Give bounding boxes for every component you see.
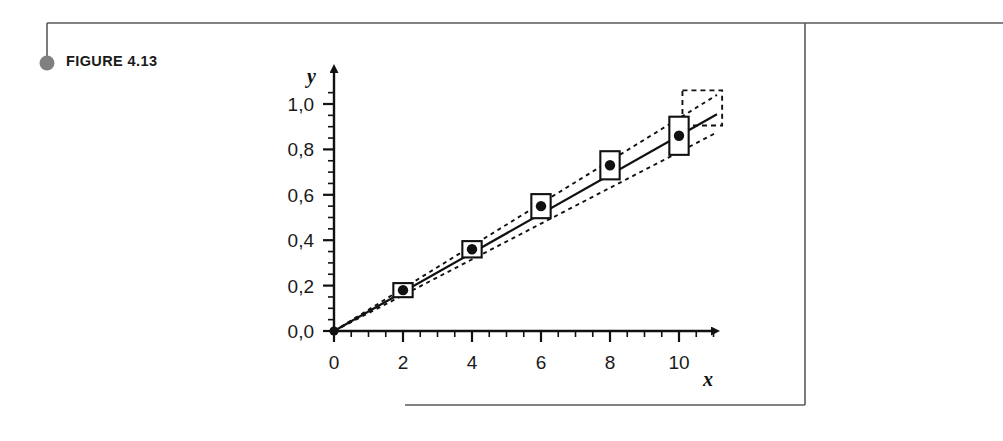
figure-container: FIGURE 4.13 0,00,20,40,60,81,0 0246810 y… <box>0 0 1003 441</box>
x-tick-label: 4 <box>467 352 478 373</box>
data-point-marker <box>605 160 615 170</box>
data-point-marker <box>536 201 546 211</box>
x-tick-label: 0 <box>329 352 340 373</box>
y-axis-ticks <box>323 93 334 331</box>
y-axis-label: y <box>305 65 316 88</box>
y-tick-label: 0,6 <box>288 185 314 206</box>
data-point-marker <box>674 131 684 141</box>
x-tick-label: 2 <box>398 352 409 373</box>
y-tick-label: 0,8 <box>288 139 314 160</box>
regression-line <box>334 114 717 331</box>
y-tick-label: 0,4 <box>288 230 315 251</box>
data-point-marker <box>467 244 477 254</box>
data-point-marker <box>398 285 408 295</box>
y-tick-label: 1,0 <box>288 94 314 115</box>
regression-line <box>334 114 717 331</box>
x-tick-label: 8 <box>605 352 616 373</box>
x-tick-label: 10 <box>668 352 689 373</box>
plot-axes <box>334 72 712 331</box>
scatter-plot: 0,00,20,40,60,81,0 0246810 y x <box>0 0 1003 441</box>
x-axis-tick-labels: 0246810 <box>329 352 690 373</box>
x-axis-label: x <box>702 368 713 390</box>
lower-confidence-band <box>334 132 717 331</box>
y-tick-label: 0,0 <box>288 321 314 342</box>
origin-marker <box>329 326 338 335</box>
x-tick-label: 6 <box>536 352 547 373</box>
x-axis-ticks <box>334 331 714 342</box>
y-tick-label: 0,2 <box>288 276 314 297</box>
y-axis-tick-labels: 0,00,20,40,60,81,0 <box>288 94 315 342</box>
upper-confidence-band <box>334 95 717 331</box>
confidence-bands <box>334 95 717 331</box>
